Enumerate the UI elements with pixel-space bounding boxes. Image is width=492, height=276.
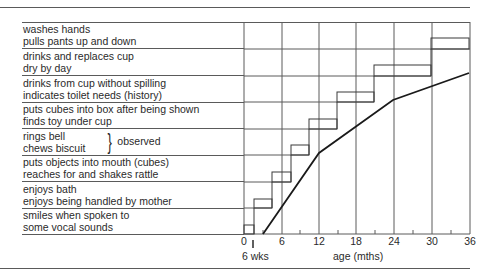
x-tick-label: 24	[384, 235, 404, 247]
trend-line	[263, 73, 469, 234]
x-tick-label: 0	[234, 235, 254, 247]
x-tick-label: 6	[272, 235, 292, 247]
x-tick-label: 18	[346, 235, 366, 247]
x-tick-label: 30	[422, 235, 442, 247]
x-tick-label: 36	[460, 235, 480, 247]
six-weeks-label: 6 wks	[242, 250, 269, 262]
x-axis-title: age (mths)	[333, 250, 383, 262]
x-tick-label: 12	[309, 235, 329, 247]
grid	[244, 22, 470, 234]
